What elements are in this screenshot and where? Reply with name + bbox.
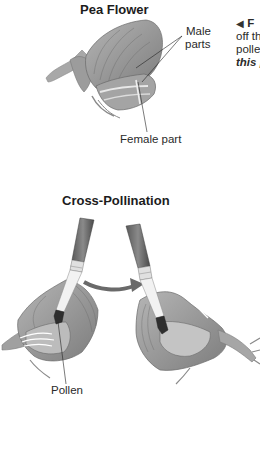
caption-line1: F <box>247 17 254 29</box>
transfer-arrow <box>84 282 134 289</box>
female-part-label: Female part <box>120 133 181 146</box>
pollen-label: Pollen <box>51 384 83 397</box>
caption-line3: polle <box>236 43 260 56</box>
side-caption: ◀ F off th polle this p <box>236 17 260 69</box>
pea-flower-illustration <box>46 20 182 132</box>
male-parts-label: Male parts <box>185 25 211 51</box>
right-flower-illustration <box>126 224 260 384</box>
male-parts-label-line1: Male <box>185 25 211 38</box>
diagram-illustrations <box>0 0 260 451</box>
pea-flower-title: Pea Flower <box>80 2 149 17</box>
left-flower-illustration <box>2 218 98 384</box>
cross-pollination-title: Cross-Pollination <box>62 193 170 208</box>
caption-marker-icon: ◀ <box>236 18 244 29</box>
caption-line2: off th <box>236 30 260 43</box>
male-parts-label-line2: parts <box>185 38 211 51</box>
caption-line4: this p <box>236 56 260 69</box>
